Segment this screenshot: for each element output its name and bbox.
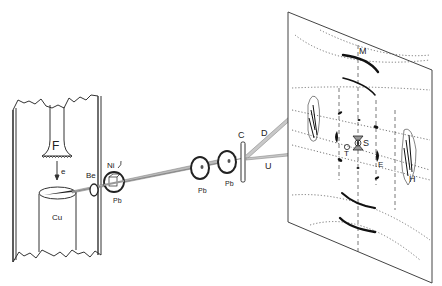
- label-undiffracted-beam: U: [265, 161, 272, 171]
- collimator-2: [191, 157, 209, 179]
- label-spot-t: T: [344, 149, 349, 158]
- label-anode: Cu: [52, 213, 62, 222]
- label-spot-e: E: [378, 160, 383, 169]
- electron-arrow: [55, 161, 59, 180]
- label-collimator-2: Pb: [198, 187, 207, 194]
- xray-diffraction-diagram: F e Cu Be Ni Pb Pb: [0, 0, 442, 286]
- label-filament: F: [52, 139, 59, 153]
- label-collimator-1: Pb: [113, 197, 122, 204]
- collimator-3: [218, 151, 236, 173]
- label-collimator-3: Pb: [225, 180, 234, 187]
- label-electrons: e: [61, 167, 66, 176]
- beryllium-window: [90, 184, 98, 196]
- label-spot-s: S: [363, 138, 369, 148]
- label-diffracted-beam: D: [261, 128, 268, 138]
- label-filter: Ni: [107, 161, 115, 170]
- label-spot-h: H: [409, 174, 416, 184]
- label-window: Be: [86, 171, 96, 180]
- crystal: [241, 142, 245, 182]
- label-spot-m: M: [359, 46, 367, 56]
- label-crystal: C: [238, 130, 245, 140]
